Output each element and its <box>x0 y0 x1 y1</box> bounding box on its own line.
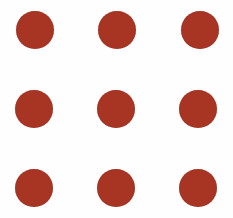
dot-r0-c2 <box>181 11 219 49</box>
dot-r1-c1 <box>97 90 135 128</box>
dot-r1-c2 <box>179 90 217 128</box>
dot-r1-c0 <box>15 90 53 128</box>
dot-r2-c1 <box>97 169 135 207</box>
dot-r2-c2 <box>179 169 217 207</box>
dot-r2-c0 <box>15 169 53 207</box>
dot-r0-c1 <box>98 11 136 49</box>
dot-r0-c0 <box>16 11 54 49</box>
dot-grid-canvas <box>0 0 233 218</box>
